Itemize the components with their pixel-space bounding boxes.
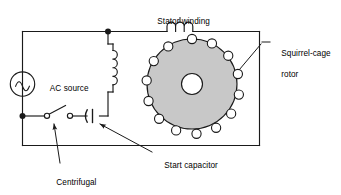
- rotor-bar: [149, 57, 158, 66]
- rotor-bar: [234, 90, 243, 99]
- label-centrifugal-start-switch: Centrifugal start switch: [47, 167, 98, 195]
- switch-contact-right: [67, 113, 72, 118]
- switch-contact-left: [44, 113, 49, 118]
- squirrel-cage-rotor-graphic: [142, 34, 243, 138]
- auxiliary-winding-coil: [113, 51, 117, 85]
- rotor-bar: [144, 96, 153, 105]
- rotor-bar: [192, 129, 201, 138]
- rotor-bar: [224, 51, 233, 60]
- switch-blade: [49, 106, 66, 115]
- rotor-bar: [155, 114, 164, 123]
- label-squirrel-cage-rotor: Squirrel-cage rotor: [272, 38, 331, 91]
- switch-contacts: [44, 113, 72, 118]
- label-stator-winding: Stator winding: [148, 6, 210, 38]
- junction-dot-left: [20, 113, 26, 119]
- motor-circuit-diagram: Stator winding Squirrel-cage rotor Start…: [0, 0, 341, 195]
- label-start-capacitor: Start capacitor: [155, 150, 218, 182]
- rotor-bar: [207, 39, 216, 48]
- label-ac-source: AC source: [41, 73, 89, 105]
- rotor-bar: [233, 69, 242, 78]
- rotor-shaft-hole: [182, 74, 203, 95]
- rotor-bar: [172, 126, 181, 135]
- junction-dot-top: [105, 29, 111, 35]
- rotor-bar: [227, 109, 236, 118]
- leader-arrow-start-capacitor: [100, 124, 152, 152]
- rotor-bar: [212, 123, 221, 132]
- leader-arrow-centrifugal-switch: [54, 124, 60, 163]
- rotor-bar: [164, 42, 173, 51]
- rotor-bar: [142, 76, 151, 85]
